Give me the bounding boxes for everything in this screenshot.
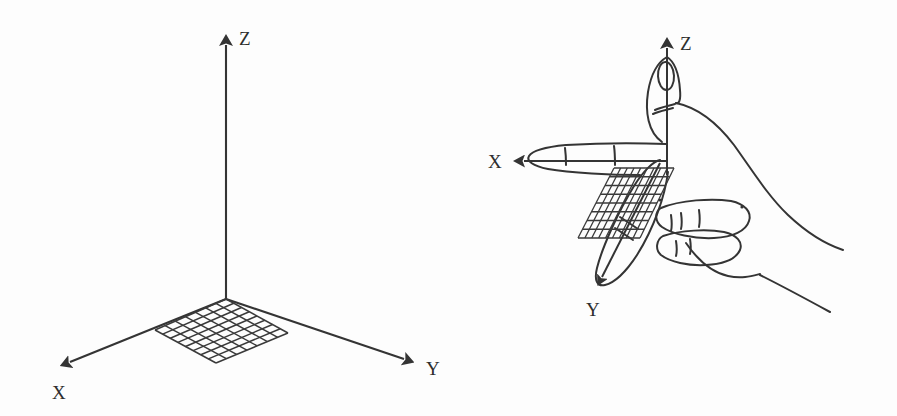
ring-finger-outline bbox=[656, 200, 749, 238]
ring-crease-3 bbox=[699, 210, 700, 227]
right-x-axis-label: X bbox=[488, 151, 502, 172]
right-hand-panel: Z X Y bbox=[0, 0, 897, 416]
pinky-crease-1 bbox=[676, 241, 677, 256]
right-plane-grid bbox=[578, 168, 674, 238]
index-knuckle-crease-2 bbox=[614, 146, 615, 165]
hand-wrist-lower-edge bbox=[760, 275, 830, 312]
hand-back-upper-edge bbox=[676, 103, 843, 250]
knuckle-dot-2 bbox=[740, 205, 743, 208]
ring-crease-1 bbox=[671, 215, 672, 231]
thumb-left-edge bbox=[647, 57, 667, 142]
pinky-crease-2 bbox=[690, 239, 691, 254]
ring-crease-2 bbox=[681, 213, 682, 229]
palm-lower-contour bbox=[686, 243, 760, 277]
right-y-axis-label: Y bbox=[586, 299, 600, 320]
figure-canvas: Z X Y bbox=[0, 0, 897, 416]
index-knuckle-crease-1 bbox=[565, 148, 566, 165]
ring-finger-curled bbox=[656, 200, 749, 238]
hand-outline bbox=[676, 103, 843, 312]
right-y-axis: Y bbox=[586, 163, 660, 320]
right-z-axis-label: Z bbox=[680, 33, 692, 54]
thumb-up bbox=[647, 57, 680, 142]
